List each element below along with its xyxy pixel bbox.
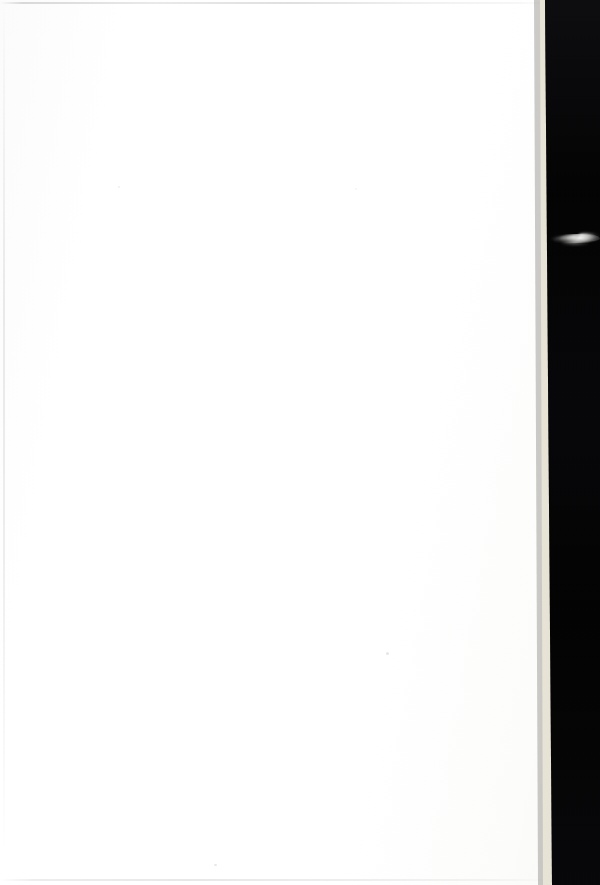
left-edge-line: [3, 0, 5, 885]
paper-surface: [0, 0, 560, 885]
bottom-edge-line: [0, 879, 556, 881]
top-edge-line: [0, 2, 556, 4]
dust-speck: [118, 186, 120, 188]
paper-tone-gradient: [0, 0, 560, 885]
dust-speck: [355, 188, 357, 190]
scanned-page: [0, 0, 600, 885]
dust-speck: [214, 864, 217, 866]
dust-speck: [386, 652, 389, 655]
